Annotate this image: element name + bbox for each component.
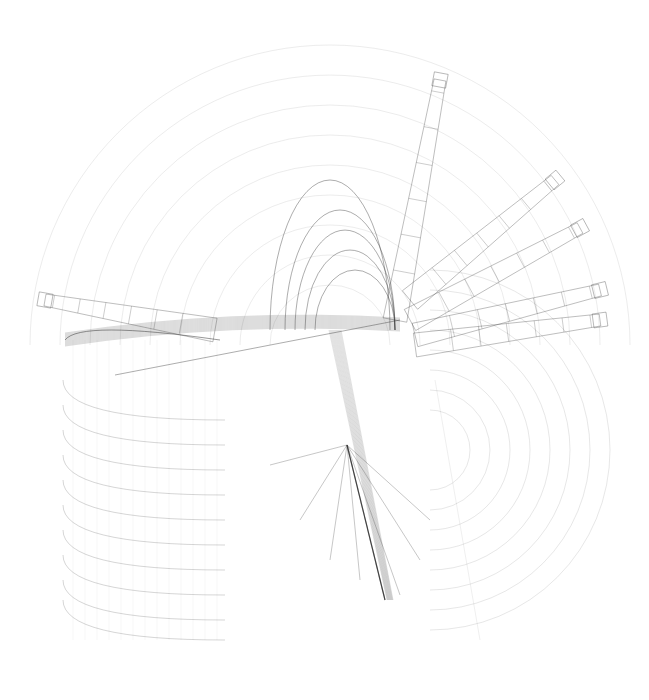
column-line xyxy=(340,330,393,600)
line-art-canvas xyxy=(0,0,649,700)
beam-rung xyxy=(416,163,432,166)
column-line xyxy=(334,330,390,600)
right-arc xyxy=(430,350,530,550)
beam-outline xyxy=(404,223,583,331)
fan-line xyxy=(347,445,420,560)
faint-diagonal xyxy=(435,380,480,640)
beam-rung xyxy=(562,318,564,332)
stack-curve xyxy=(63,530,225,570)
column-line xyxy=(339,330,392,600)
stack-curve xyxy=(63,455,225,495)
beam-rung xyxy=(128,306,131,324)
stack-curve xyxy=(63,580,225,620)
column-line xyxy=(332,330,389,600)
beam-outline xyxy=(383,79,446,322)
fan-line xyxy=(347,445,430,520)
beam-rung xyxy=(401,234,420,238)
stack-curve xyxy=(63,505,225,545)
stack-curve xyxy=(63,430,225,470)
beam-rung xyxy=(409,198,427,201)
beam-rung xyxy=(590,315,592,327)
fan-line xyxy=(270,445,347,465)
stack-curve xyxy=(63,380,225,420)
beam-rung xyxy=(491,266,500,282)
concentric-arc xyxy=(60,75,600,345)
column-line xyxy=(337,330,391,600)
dome-arc xyxy=(285,210,395,330)
fan-line xyxy=(347,445,400,595)
stack-curve xyxy=(63,555,225,595)
fan-line xyxy=(330,445,347,560)
column-line xyxy=(333,330,389,600)
beam-rung xyxy=(517,253,525,267)
beam-rung xyxy=(432,91,444,93)
beam-rung xyxy=(393,270,414,274)
right-arc xyxy=(430,410,470,490)
column-line xyxy=(330,330,388,600)
beam-rung xyxy=(78,299,81,313)
right-arc xyxy=(430,390,490,510)
beam-rung xyxy=(589,286,592,298)
beam-rung xyxy=(505,304,509,321)
fan-line xyxy=(300,445,347,520)
abstract-line-drawing xyxy=(0,0,649,700)
beam-rung xyxy=(449,316,454,337)
column-line xyxy=(338,330,392,600)
stack-curve xyxy=(63,405,225,445)
beam-rung xyxy=(103,303,106,319)
column-line xyxy=(335,330,390,600)
beam-outline xyxy=(412,284,601,346)
beam-rung xyxy=(477,233,488,247)
beam-outline xyxy=(402,175,558,309)
beam-rung xyxy=(521,198,530,209)
diagonal-line xyxy=(115,320,400,375)
right-arc xyxy=(430,270,610,630)
stack-curve xyxy=(63,480,225,520)
